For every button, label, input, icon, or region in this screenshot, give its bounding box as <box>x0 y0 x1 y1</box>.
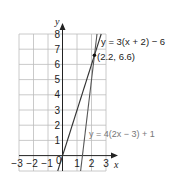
svg-text:3: 3 <box>54 105 60 116</box>
svg-text:5: 5 <box>54 74 60 85</box>
x-axis-label: x <box>113 159 119 170</box>
svg-text:3: 3 <box>103 158 109 169</box>
svg-text:2: 2 <box>54 120 60 131</box>
equation-2-label: y = 4(2x − 3) + 1 <box>89 129 155 139</box>
svg-text:−3: −3 <box>11 158 23 169</box>
svg-text:2: 2 <box>89 158 95 169</box>
y-tick-labels: 1 2 3 4 5 6 7 8 <box>54 29 60 146</box>
svg-text:−2: −2 <box>26 158 38 169</box>
intersection-point <box>93 54 97 58</box>
svg-text:4: 4 <box>54 89 60 100</box>
svg-text:8: 8 <box>54 29 60 40</box>
svg-text:7: 7 <box>54 44 60 55</box>
x-axis-arrow-icon <box>111 153 118 159</box>
graph: x y 0 1 2 3 4 5 6 7 8 −3 −2 −1 1 2 3 (2.… <box>0 0 171 185</box>
y-axis-label: y <box>54 16 60 27</box>
y-axis-arrow-icon <box>60 23 66 30</box>
svg-text:−1: −1 <box>41 158 53 169</box>
point-label: (2.2, 6.6) <box>97 51 135 62</box>
svg-text:6: 6 <box>54 59 60 70</box>
equation-1-label: y = 3(x + 2) − 6 <box>101 36 165 47</box>
svg-text:1: 1 <box>74 158 80 169</box>
svg-text:1: 1 <box>54 135 60 146</box>
